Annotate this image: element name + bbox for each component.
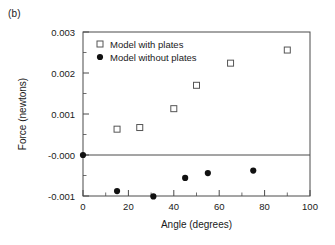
y-tick-label: -0.000 — [48, 150, 75, 161]
legend-marker — [97, 41, 103, 47]
y-tick-label: -0.001 — [48, 191, 75, 202]
data-point — [284, 47, 290, 53]
y-tick-label: 0.002 — [51, 68, 75, 79]
x-tick-label: 60 — [214, 201, 225, 212]
data-point — [228, 60, 234, 66]
data-point — [150, 193, 156, 199]
x-tick-label: 100 — [302, 201, 318, 212]
data-point — [80, 152, 86, 158]
data-point — [250, 167, 256, 173]
data-point — [182, 175, 188, 181]
x-tick-label: 80 — [259, 201, 270, 212]
data-point — [194, 82, 200, 88]
legend-label: Model without plates — [110, 52, 197, 63]
legend-label: Model with plates — [110, 39, 184, 50]
panel-label: (b) — [8, 8, 21, 19]
x-axis-title: Angle (degrees) — [161, 219, 232, 230]
x-tick-label: 40 — [169, 201, 180, 212]
scatter-plot: Model with platesModel without plates 02… — [0, 0, 335, 245]
legend: Model with platesModel without plates — [97, 39, 197, 63]
y-tick-label: 0.001 — [51, 109, 75, 120]
x-tick-label: 0 — [80, 201, 85, 212]
x-tick-label: 20 — [123, 201, 134, 212]
series-2 — [80, 152, 256, 200]
figure-panel-b: (b) Model with platesModel without plate… — [0, 0, 335, 245]
y-tick-label: 0.003 — [51, 27, 75, 38]
data-layer — [80, 47, 290, 199]
data-point — [114, 126, 120, 132]
data-point — [114, 188, 120, 194]
data-point — [171, 106, 177, 112]
data-point — [205, 170, 211, 176]
data-point — [137, 125, 143, 131]
y-axis-title: Force (newtons) — [17, 78, 28, 150]
legend-marker — [97, 54, 103, 60]
